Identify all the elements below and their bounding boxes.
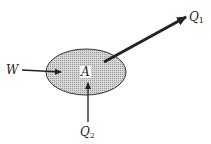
force-diagram xyxy=(0,0,211,144)
force-q1-symbol: Q xyxy=(189,10,199,24)
body-a-label: A xyxy=(80,66,91,78)
force-w-label: W xyxy=(6,64,18,76)
force-q1-subscript: 1 xyxy=(199,16,204,25)
force-w-symbol: W xyxy=(6,63,18,77)
body-a-symbol: A xyxy=(81,65,90,79)
force-q2-subscript: 2 xyxy=(90,131,95,140)
force-q2-label: Q2 xyxy=(80,126,95,140)
force-q2-symbol: Q xyxy=(80,125,90,139)
force-q1-arrow xyxy=(104,17,186,62)
force-q1-label: Q1 xyxy=(189,11,204,25)
